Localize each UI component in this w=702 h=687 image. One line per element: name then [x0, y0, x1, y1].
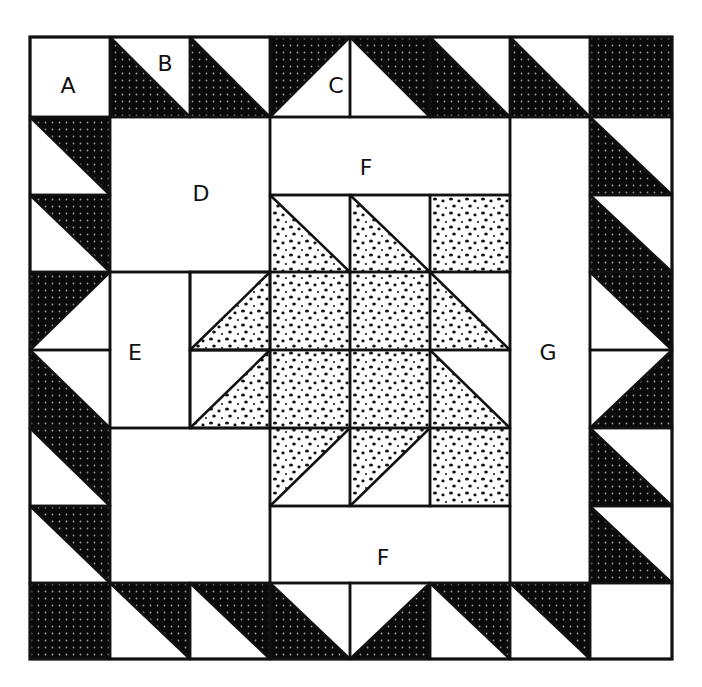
quilt-cell — [270, 350, 350, 428]
seam-lines — [30, 37, 672, 659]
quilt-cell — [30, 583, 110, 659]
piece-d — [110, 117, 270, 272]
piece-label-d: D — [193, 181, 210, 206]
piece-label-b: B — [157, 51, 172, 76]
piece-label-a: A — [60, 73, 75, 98]
piece-label-c: C — [328, 73, 343, 98]
quilt-cell — [350, 272, 430, 350]
quilt-cell — [350, 350, 430, 428]
quilt-cell — [430, 428, 510, 506]
piece-label-e: E — [128, 340, 142, 365]
piece-plain-square — [110, 428, 270, 583]
piece-f-bottom — [270, 506, 510, 583]
piece-label-g: G — [539, 340, 556, 365]
piece-e — [110, 272, 190, 428]
piece-label-f: F — [377, 545, 390, 570]
quilt-block-diagram: ABCDEFGF — [0, 0, 702, 687]
quilt-cell — [590, 37, 672, 117]
piece-f-top — [270, 117, 510, 195]
quilt-cell — [270, 272, 350, 350]
piece-label-f: F — [360, 155, 373, 180]
quilt-cell — [430, 195, 510, 272]
